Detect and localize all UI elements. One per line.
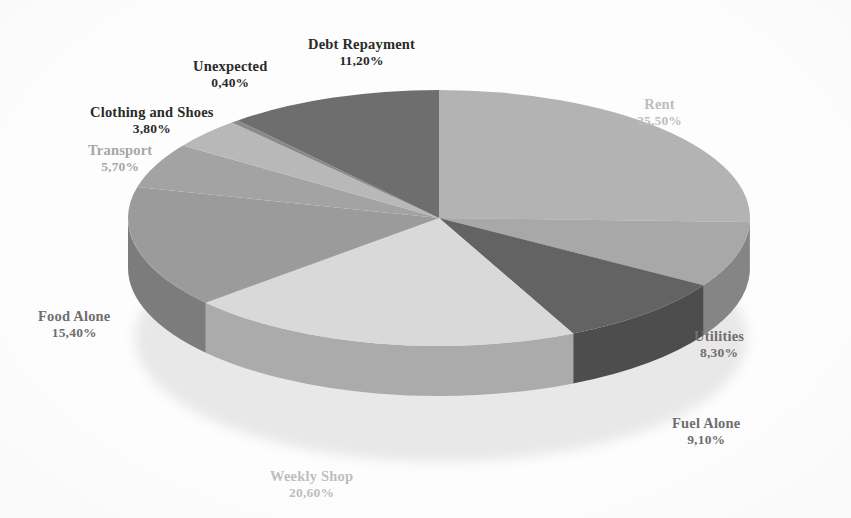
slice-label-weekly-shop: Weekly Shop 20,60% (270, 468, 353, 501)
slice-label-name: Utilities (694, 328, 744, 345)
slice-label-unexpected: Unexpected 0,40% (193, 58, 268, 91)
slice-label-value: 5,70% (88, 159, 152, 175)
pie-slice-rent[interactable] (439, 90, 750, 222)
slice-label-value: 20,60% (270, 485, 353, 501)
slice-label-value: 9,10% (672, 432, 740, 448)
slice-label-value: 8,30% (694, 345, 744, 361)
slice-label-value: 11,20% (308, 53, 415, 69)
slice-label-name: Clothing and Shoes (90, 104, 214, 121)
slice-label-value: 0,40% (193, 75, 268, 91)
slice-label-clothing-and-shoes: Clothing and Shoes 3,80% (90, 104, 214, 137)
slice-label-name: Weekly Shop (270, 468, 353, 485)
slice-label-name: Unexpected (193, 58, 268, 75)
pie-chart: Debt Repayment 11,20% Unexpected 0,40% C… (0, 0, 851, 518)
slice-label-rent: Rent 25,50% (637, 96, 682, 129)
slice-label-name: Rent (637, 96, 682, 113)
slice-label-utilities: Utilities 8,30% (694, 328, 744, 361)
slice-label-transport: Transport 5,70% (88, 142, 152, 175)
slice-label-name: Transport (88, 142, 152, 159)
slice-label-name: Food Alone (38, 308, 111, 325)
slice-label-debt-repayment: Debt Repayment 11,20% (308, 36, 415, 69)
slice-label-value: 3,80% (90, 121, 214, 137)
slice-label-name: Fuel Alone (672, 415, 740, 432)
slice-label-name: Debt Repayment (308, 36, 415, 53)
slice-label-food-alone: Food Alone 15,40% (38, 308, 111, 341)
slice-label-value: 25,50% (637, 113, 682, 129)
slice-label-value: 15,40% (38, 325, 111, 341)
slice-label-fuel-alone: Fuel Alone 9,10% (672, 415, 740, 448)
